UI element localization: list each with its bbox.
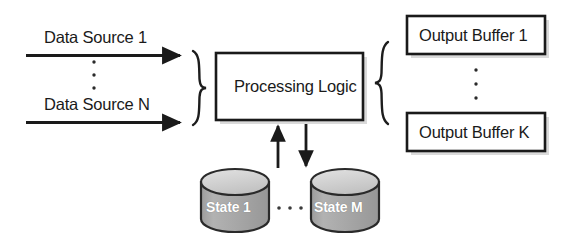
processing-logic-label: Processing Logic: [234, 78, 356, 95]
output-grouping-brace: [375, 42, 388, 124]
data-source-1-label: Data Source 1: [44, 29, 147, 46]
state-ellipsis-dots: [277, 206, 303, 210]
output-buffer-k-label: Output Buffer K: [419, 124, 529, 141]
output-ellipsis-dots: [474, 68, 477, 99]
output-buffer-1-label: Output Buffer 1: [419, 27, 528, 44]
diagram-canvas: Data Source 1 Data Source N Processing L…: [0, 0, 572, 252]
state-1-label: State 1: [206, 200, 251, 214]
input-ellipsis-dots: [92, 60, 95, 89]
input-grouping-brace: [193, 51, 206, 125]
state-m-label: State M: [314, 200, 362, 214]
data-source-n-label: Data Source N: [44, 96, 150, 113]
